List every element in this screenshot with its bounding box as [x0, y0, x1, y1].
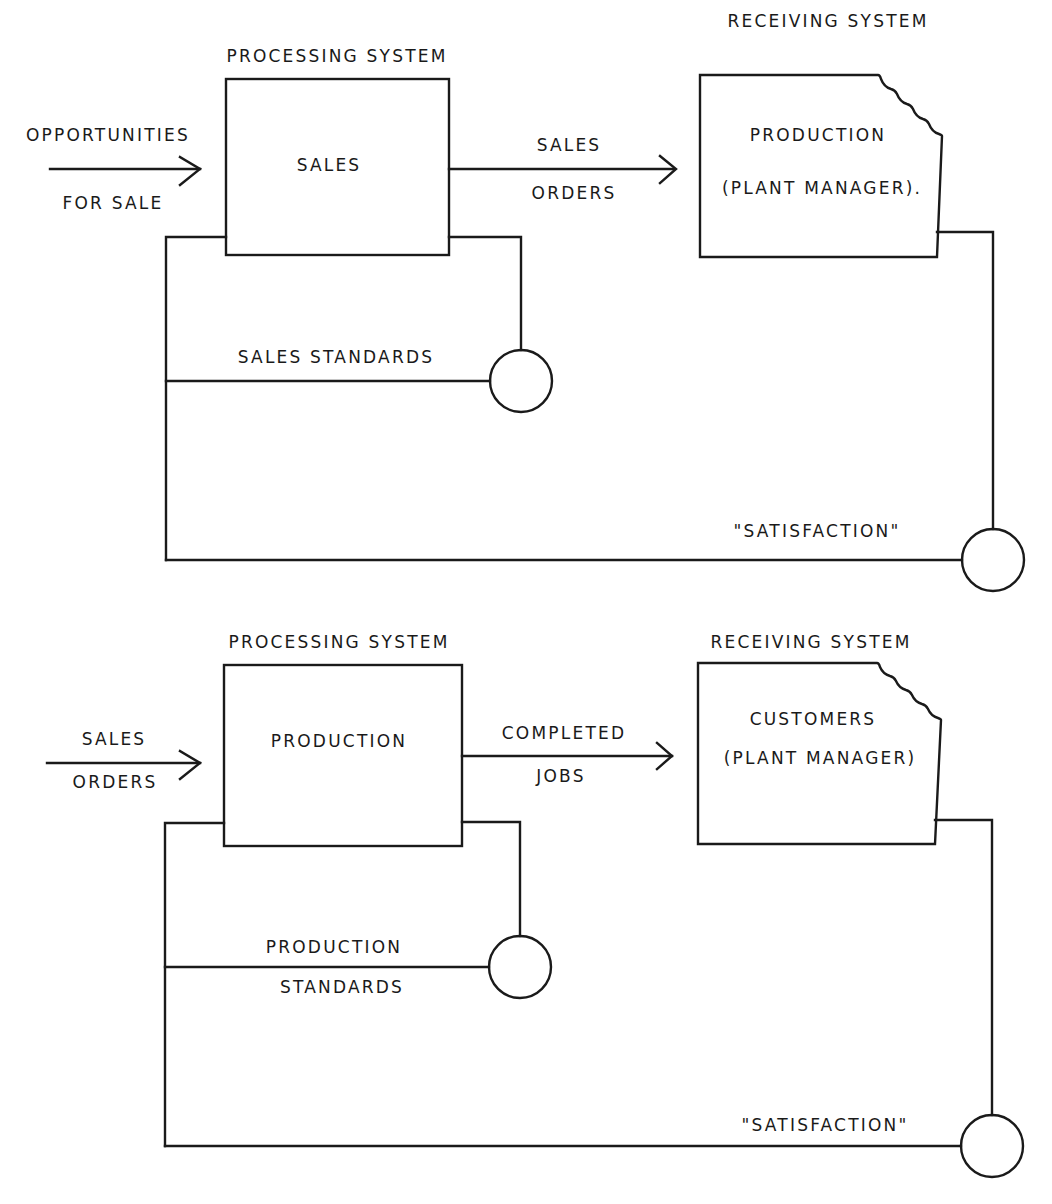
receiving-box-line1: PRODUCTION — [750, 127, 886, 144]
feedback-right-line — [449, 237, 521, 350]
standards-label-line1: PRODUCTION — [266, 939, 402, 956]
satisfaction-label: "SATISFACTION" — [734, 523, 901, 540]
input-label-top: SALES — [82, 731, 147, 748]
satisfaction-feedback-line — [937, 232, 993, 529]
receiving-box-line2: (PLANT MANAGER) — [724, 750, 917, 767]
satisfaction-comparator-circle — [962, 529, 1024, 591]
processing-system-header: PROCESSING SYSTEM — [226, 48, 447, 65]
processing-box-production — [224, 665, 462, 846]
feedback-left-line — [166, 237, 226, 560]
standards-comparator-circle — [489, 936, 551, 998]
satisfaction-feedback-line — [935, 820, 992, 1115]
output-arrow-icon — [449, 156, 676, 183]
receiving-box-line2: (PLANT MANAGER). — [722, 180, 922, 197]
feedback-left-line — [165, 823, 224, 1146]
standards-comparator-circle — [490, 350, 552, 412]
output-label-top: SALES — [537, 137, 602, 154]
input-label-bottom: ORDERS — [73, 774, 158, 791]
input-label-top: OPPORTUNITIES — [26, 127, 190, 144]
standards-label: SALES STANDARDS — [238, 349, 434, 366]
processing-box-label: SALES — [297, 157, 362, 174]
output-label-bottom: JOBS — [536, 768, 585, 785]
satisfaction-label: "SATISFACTION" — [742, 1117, 909, 1134]
receiving-box-line1: CUSTOMERS — [750, 711, 877, 728]
feedback-right-line — [462, 822, 520, 936]
processing-box-label: PRODUCTION — [271, 733, 407, 750]
input-arrow-icon — [50, 157, 200, 185]
output-label-top: COMPLETED — [502, 725, 626, 742]
standards-label-line2: STANDARDS — [280, 979, 404, 996]
satisfaction-comparator-circle — [961, 1115, 1023, 1177]
input-label-bottom: FOR SALE — [63, 195, 164, 212]
output-label-bottom: ORDERS — [532, 185, 617, 202]
receiving-system-header: RECEIVING SYSTEM — [710, 634, 911, 651]
receiving-system-header: RECEIVING SYSTEM — [727, 13, 928, 30]
processing-system-header: PROCESSING SYSTEM — [228, 634, 449, 651]
receiving-box-production — [700, 75, 942, 257]
